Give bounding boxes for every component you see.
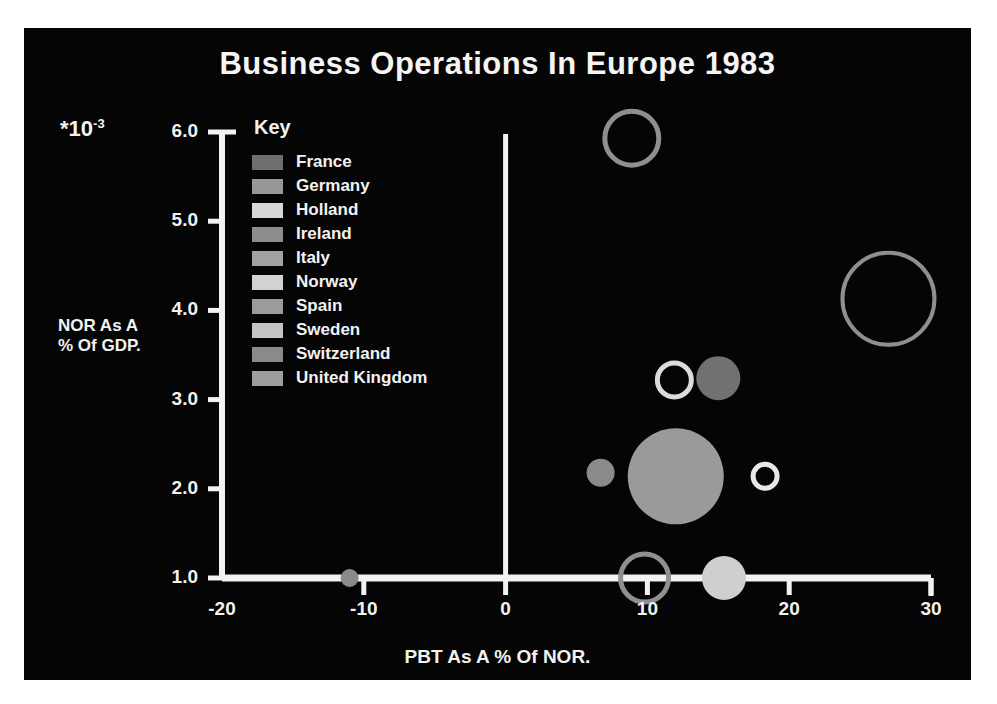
bubble-united-kingdom[interactable]: [341, 569, 359, 587]
y-tick-label-6.0: 6.0: [144, 120, 198, 142]
x-tick-label--20: -20: [195, 598, 249, 620]
bubble-germany[interactable]: [628, 428, 724, 524]
x-tick-label-0: 0: [479, 598, 533, 620]
x-tick-label-10: 10: [620, 598, 674, 620]
bubble-norway[interactable]: [605, 111, 659, 165]
y-tick-label-2.0: 2.0: [144, 477, 198, 499]
data-points: [341, 111, 935, 602]
y-tick-label-4.0: 4.0: [144, 298, 198, 320]
x-tick-label-30: 30: [904, 598, 958, 620]
chart-figure: Business Operations In Europe 1983 *10-3…: [24, 28, 971, 680]
bubble-spain[interactable]: [753, 464, 777, 488]
y-tick-label-5.0: 5.0: [144, 209, 198, 231]
bubble-ireland[interactable]: [657, 363, 691, 397]
bubble-sweden[interactable]: [587, 459, 615, 487]
bubble-france[interactable]: [696, 356, 740, 400]
y-tick-label-1.0: 1.0: [144, 566, 198, 588]
y-tick-label-3.0: 3.0: [144, 388, 198, 410]
page-canvas: Business Operations In Europe 1983 *10-3…: [0, 0, 997, 704]
bubble-holland[interactable]: [702, 556, 746, 600]
bubble-switzerland[interactable]: [842, 253, 934, 345]
x-tick-label-20: 20: [762, 598, 816, 620]
axes: [208, 132, 931, 596]
x-tick-label--10: -10: [337, 598, 391, 620]
